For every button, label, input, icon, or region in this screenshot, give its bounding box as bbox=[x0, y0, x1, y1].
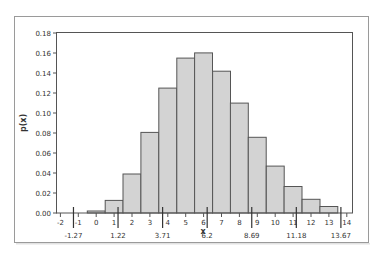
histogram-bar bbox=[123, 174, 141, 213]
y-tick-label: 0.04 bbox=[35, 170, 51, 178]
outer-frame-shadow bbox=[16, 243, 370, 245]
y-tick-label: 0.16 bbox=[35, 50, 51, 58]
x-tick-label: 14 bbox=[342, 219, 351, 227]
histogram-bar bbox=[248, 137, 266, 213]
x-tick-label: 13 bbox=[324, 219, 333, 227]
chart-canvas: 0.000.020.040.060.080.100.120.140.160.18… bbox=[0, 0, 381, 254]
x-tick-label: 2 bbox=[130, 219, 134, 227]
reference-mark-label: 8.69 bbox=[244, 232, 260, 240]
x-tick-label: -1 bbox=[75, 219, 82, 227]
histogram-bar bbox=[177, 58, 195, 213]
y-tick-label: 0.12 bbox=[35, 90, 51, 98]
x-tick-label: 7 bbox=[219, 219, 223, 227]
x-tick-label: 5 bbox=[183, 219, 187, 227]
histogram-bar bbox=[320, 207, 338, 214]
histogram-bar bbox=[213, 71, 231, 213]
x-tick-label: 10 bbox=[271, 219, 280, 227]
x-tick-label: 1 bbox=[112, 219, 116, 227]
x-tick-label: -2 bbox=[57, 219, 64, 227]
x-tick-label: 8 bbox=[237, 219, 241, 227]
x-axis-label: x bbox=[200, 227, 206, 236]
x-tick-label: 4 bbox=[166, 219, 171, 227]
y-tick-label: 0.08 bbox=[35, 130, 51, 138]
y-tick-label: 0.18 bbox=[35, 30, 51, 38]
histogram-bar bbox=[230, 103, 248, 213]
y-axis-label: p(x) bbox=[19, 114, 28, 132]
reference-mark-label: 11.18 bbox=[286, 232, 306, 240]
x-tick-label: 0 bbox=[94, 219, 98, 227]
x-tick-label: 3 bbox=[148, 219, 152, 227]
y-tick-label: 0.14 bbox=[35, 70, 51, 78]
histogram-bar bbox=[266, 166, 284, 213]
histogram-bar bbox=[141, 132, 159, 213]
histogram-bar bbox=[105, 200, 123, 213]
reference-mark-label: 1.22 bbox=[110, 232, 126, 240]
y-tick-label: 0.06 bbox=[35, 150, 51, 158]
x-tick-label: 6 bbox=[201, 219, 206, 227]
reference-mark-label: 3.71 bbox=[155, 232, 171, 240]
reference-mark-label: 13.67 bbox=[331, 232, 351, 240]
histogram-bar bbox=[302, 199, 320, 213]
y-tick-label: 0.00 bbox=[35, 210, 51, 218]
x-tick-label: 12 bbox=[307, 219, 316, 227]
histogram-chart: 0.000.020.040.060.080.100.120.140.160.18… bbox=[0, 0, 381, 254]
histogram-bar bbox=[159, 88, 177, 213]
histogram-bar bbox=[284, 187, 302, 214]
histogram-bar bbox=[195, 53, 213, 213]
y-tick-label: 0.02 bbox=[35, 190, 51, 198]
y-tick-label: 0.10 bbox=[35, 110, 51, 118]
x-tick-label: 9 bbox=[255, 219, 259, 227]
reference-mark-label: -1.27 bbox=[64, 232, 82, 240]
